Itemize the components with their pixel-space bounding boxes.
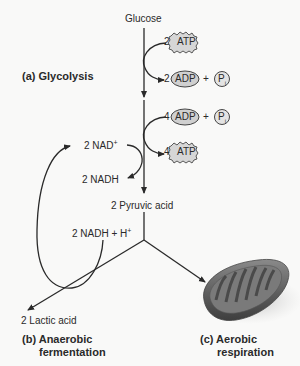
nadh-h-label: 2 NADH + H+ [72,227,131,239]
pi-label-2: Pi [218,111,226,124]
glycolysis-label: (a) Glycolysis [22,70,94,82]
pi-label-1: Pi [218,73,226,86]
plus-2: + [203,111,209,122]
atp-in-count: 2 [164,36,170,47]
adp-in-label: ADP [175,111,196,122]
atp-out-label: ATP [177,146,196,157]
atp-payoff-arrow [144,117,166,154]
adp-in-count: 4 [164,111,170,122]
glucose-label: Glucose [125,13,162,24]
nadh-label: 2 NADH [82,174,119,185]
atp-in-label: ATP [177,36,196,47]
plus-1: + [203,73,209,84]
mitochondrion-icon [198,259,300,324]
atp-out-count: 4 [164,146,170,157]
nad-reduction-arrow [127,145,142,178]
anaerobic-label: (b) Anaerobic fermentation [22,333,106,359]
aerobic-label: (c) Aerobic respiration [200,333,274,359]
nad-plus-label: 2 NAD+ [84,139,118,151]
pathway-diagram [0,0,300,366]
lactic-acid-label: 2 Lactic acid [21,315,77,326]
nad-regeneration-loop [37,146,103,288]
adp-out-count: 2 [164,73,170,84]
aerobic-branch-line [144,240,205,282]
pyruvic-acid-label: 2 Pyruvic acid [111,200,173,211]
adp-out-label: ADP [175,73,196,84]
atp-investment-arrow [144,43,166,80]
